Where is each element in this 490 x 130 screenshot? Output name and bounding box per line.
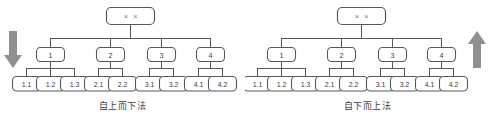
node-level1-4-label: 4 — [440, 51, 444, 60]
connectors-node2-to-leaves — [99, 62, 123, 77]
node-level1-1[interactable]: 1 — [37, 48, 65, 62]
node-leaf-4-1-label: 4.1 — [425, 81, 435, 88]
node-leaf-3-2[interactable]: 3.2 — [160, 77, 188, 92]
node-leaf-3-1-label: 3.1 — [376, 81, 386, 88]
connectors-node1-to-leaves — [258, 62, 306, 77]
connectors-root-to-level1 — [282, 25, 442, 48]
node-leaf-2-1-label: 2.1 — [94, 81, 104, 88]
node-level1-4[interactable]: 4 — [197, 48, 225, 62]
node-level1-1-label: 1 — [49, 51, 53, 60]
node-leaf-2-1-label: 2.1 — [325, 81, 335, 88]
node-leaf-4-2[interactable]: 4.2 — [209, 77, 237, 92]
node-leaf-2-2[interactable]: 2.2 — [340, 77, 368, 92]
node-level1-3[interactable]: 3 — [379, 48, 407, 62]
node-level1-4[interactable]: 4 — [428, 48, 456, 62]
node-level1-2-label: 2 — [109, 51, 113, 60]
node-level1-4-label: 4 — [209, 51, 213, 60]
node-level1-2-label: 2 — [340, 51, 344, 60]
node-level1-2[interactable]: 2 — [97, 48, 125, 62]
node-leaf-4-1-label: 4.1 — [194, 81, 204, 88]
node-leaf-3-1-label: 3.1 — [145, 81, 155, 88]
node-root[interactable]: × × — [338, 8, 386, 25]
connectors-node3-to-leaves — [381, 62, 405, 77]
node-root-label: × × — [355, 12, 371, 21]
node-leaf-1-1-label: 1.1 — [22, 81, 32, 88]
node-leaf-3-2-label: 3.2 — [400, 81, 410, 88]
up-arrow-icon — [468, 31, 486, 68]
node-leaf-1-2-label: 1.2 — [277, 81, 287, 88]
node-level1-3[interactable]: 3 — [148, 48, 176, 62]
node-leaf-1-3-label: 1.3 — [301, 81, 311, 88]
node-leaf-4-2-label: 4.2 — [218, 81, 228, 88]
node-level1-2[interactable]: 2 — [328, 48, 356, 62]
node-level1-1-label: 1 — [280, 51, 284, 60]
node-leaf-1-2-label: 1.2 — [46, 81, 56, 88]
node-leaf-1-1-label: 1.1 — [253, 81, 263, 88]
figure-top-down: × × 1 2 3 4 1.1 1.2 1.3 — [0, 0, 245, 130]
node-leaf-4-2-label: 4.2 — [449, 81, 459, 88]
connectors-node2-to-leaves — [330, 62, 354, 77]
caption-top-down: 自上而下法 — [0, 99, 245, 112]
connectors-node4-to-leaves — [199, 62, 223, 77]
node-level1-3-label: 3 — [391, 51, 395, 60]
node-leaf-1-3-label: 1.3 — [70, 81, 80, 88]
tree-diagram-bottom-up: × × 1 2 3 4 1.1 1.2 1.3 — [245, 0, 490, 100]
tree-diagram-top-down: × × 1 2 3 4 1.1 1.2 1.3 — [0, 0, 245, 100]
connectors-node3-to-leaves — [150, 62, 174, 77]
node-level1-3-label: 3 — [160, 51, 164, 60]
node-leaf-4-2[interactable]: 4.2 — [440, 77, 468, 92]
caption-bottom-up: 自下而上法 — [245, 99, 490, 112]
connectors-node1-to-leaves — [27, 62, 75, 77]
node-leaf-2-2-label: 2.2 — [349, 81, 359, 88]
node-root[interactable]: × × — [107, 8, 155, 25]
node-level1-1[interactable]: 1 — [268, 48, 296, 62]
connectors-node4-to-leaves — [430, 62, 454, 77]
node-leaf-2-2[interactable]: 2.2 — [109, 77, 137, 92]
figure-bottom-up: × × 1 2 3 4 1.1 1.2 1.3 — [245, 0, 490, 130]
node-leaf-2-2-label: 2.2 — [118, 81, 128, 88]
node-root-label: × × — [124, 12, 140, 21]
connectors-root-to-level1 — [51, 25, 211, 48]
node-leaf-3-2[interactable]: 3.2 — [391, 77, 419, 92]
down-arrow-icon — [4, 31, 22, 68]
node-leaf-3-2-label: 3.2 — [169, 81, 179, 88]
